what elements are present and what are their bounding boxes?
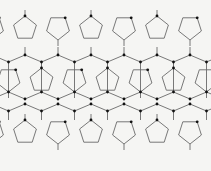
tiling-edge	[32, 129, 36, 142]
tiling-vertex	[106, 91, 109, 94]
tiling-edge	[80, 129, 84, 142]
tiling-edge	[124, 55, 141, 62]
tiling-vertex	[90, 15, 93, 18]
tiling-edge	[174, 92, 191, 99]
tiling-vertex	[14, 68, 17, 71]
tiling-edge	[190, 135, 201, 144]
tiling-edge	[179, 18, 183, 31]
tiling-edge	[124, 31, 135, 40]
tiling-edge	[47, 31, 58, 40]
tiling-edge	[129, 70, 133, 83]
tiling-edge	[141, 92, 158, 99]
tiling-edge	[113, 18, 117, 31]
tiling-edge	[91, 104, 108, 111]
tiling-vertex	[130, 120, 133, 123]
tiling-edge	[141, 104, 158, 111]
tiling-vertex	[189, 54, 192, 57]
tiling-edge	[25, 16, 36, 25]
tiling-edge	[82, 70, 86, 83]
tiling-vertex	[172, 91, 175, 94]
tiling-edge	[58, 31, 69, 40]
tiling-edge	[25, 92, 42, 99]
tiling-vertex	[156, 15, 159, 18]
tiling-edge	[190, 92, 207, 99]
tiling-edge	[141, 83, 152, 92]
tiling-edge	[42, 55, 59, 62]
tiling-vertex	[57, 54, 60, 57]
tiling-vertex	[24, 103, 27, 106]
tiling-edge	[146, 129, 150, 142]
tiling-vertex	[156, 103, 159, 106]
tiling-edge	[75, 92, 92, 99]
tiling-edge	[113, 122, 117, 135]
tiling-vertex	[40, 110, 43, 113]
tiling-vertex	[40, 91, 43, 94]
tiling-edge	[0, 92, 9, 99]
tiling-vertex	[156, 54, 159, 57]
tiling-vertex	[205, 110, 208, 113]
tiling-edge	[164, 129, 168, 142]
tiling-edge	[96, 77, 100, 90]
tiling-edge	[174, 55, 191, 62]
tiling-edge	[9, 83, 20, 92]
tiling-edge	[108, 55, 125, 62]
tiling-edge	[146, 120, 157, 129]
tiling-edge	[80, 16, 91, 25]
tiling-vertex	[130, 16, 133, 19]
tiling-edge	[14, 129, 18, 142]
tiling-edge	[65, 122, 69, 135]
tiling-edge	[164, 25, 168, 38]
tiling-edge	[14, 120, 25, 129]
tiling-vertex	[80, 68, 83, 71]
tiling-edge	[58, 92, 75, 99]
tiling-edge	[108, 68, 119, 77]
tiling-edge	[195, 83, 206, 92]
tiling-edge	[91, 92, 108, 99]
tiling-edge	[42, 104, 59, 111]
tiling-edge	[91, 120, 102, 129]
tiling-edge	[96, 68, 107, 77]
tiling-vertex	[189, 98, 192, 101]
tiling-edge	[157, 92, 174, 99]
tiling-edge	[75, 55, 92, 62]
tiling-edge	[0, 83, 8, 92]
tiling-vertex	[24, 119, 27, 122]
tiling-edge	[75, 104, 92, 111]
tiling-edge	[157, 55, 174, 62]
tiling-edge	[0, 55, 9, 62]
tiling-edge	[190, 55, 207, 62]
tiling-edge	[108, 92, 125, 99]
tiling-vertex	[90, 119, 93, 122]
tiling-edge	[58, 135, 69, 144]
tiling-vertex	[24, 15, 27, 18]
tiling-edge	[179, 135, 190, 144]
tiling-edge	[179, 122, 183, 135]
tiling-vertex	[7, 91, 10, 94]
tiling-vertex	[172, 110, 175, 113]
tiling-edge	[58, 104, 75, 111]
tiling-edge	[9, 104, 26, 111]
tiling-edge	[32, 25, 36, 38]
tiling-vertex	[189, 103, 192, 106]
tiling-edge	[108, 104, 125, 111]
tiling-vertex	[123, 103, 126, 106]
tiling-edge	[49, 77, 53, 90]
tiling-vertex	[90, 54, 93, 57]
tiling-diagram	[0, 0, 211, 171]
tiling-vertex	[40, 61, 43, 64]
tiling-edge	[190, 104, 207, 111]
tiling-vertex	[139, 91, 142, 94]
tiling-edge	[157, 104, 174, 111]
tiling-edge	[14, 16, 25, 25]
tiling-vertex	[123, 54, 126, 57]
tiling-edge	[65, 18, 69, 31]
tiling-edge	[113, 31, 124, 40]
tiling-edge	[42, 68, 53, 77]
polygon-tiling-figure	[0, 0, 211, 171]
tiling-edge	[98, 129, 102, 142]
tiling-edges	[0, 10, 211, 150]
tiling-edge	[162, 68, 173, 77]
tiling-vertex	[73, 91, 76, 94]
tiling-edge	[190, 31, 201, 40]
tiling-edge	[157, 16, 168, 25]
